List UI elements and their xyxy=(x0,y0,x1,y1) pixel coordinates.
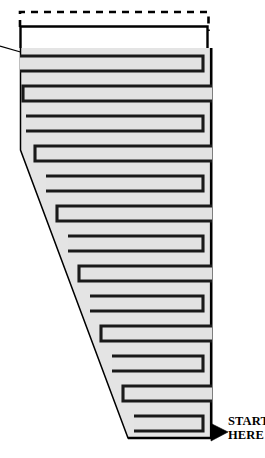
maze-wall-bar xyxy=(46,176,203,191)
maze-wall-bar xyxy=(26,116,203,131)
maze-wall-bar xyxy=(112,356,203,371)
maze-wall-bar-fill xyxy=(23,86,212,101)
maze-wall-bar-fill xyxy=(90,296,203,311)
maze-wall-bar-fill xyxy=(101,326,212,341)
maze-wall-bar xyxy=(35,146,212,161)
maze-wall-bar xyxy=(57,206,212,221)
maze-wall-bar xyxy=(20,56,203,71)
maze-wall-bar xyxy=(68,236,203,251)
maze-wall-bar-fill xyxy=(35,146,212,161)
maze-wall-bar-fill xyxy=(20,56,203,71)
maze-wall-bar-fill xyxy=(79,266,212,281)
maze-wall-bar xyxy=(101,326,212,341)
maze-wall-bar-fill xyxy=(134,416,203,431)
maze-wall-bar-fill xyxy=(112,356,203,371)
maze-figure xyxy=(0,0,265,458)
maze-wall-bar-fill xyxy=(46,176,203,191)
maze-wall-bar-fill xyxy=(26,116,203,131)
start-label-line2: HERE xyxy=(228,429,265,443)
start-label-line1: START xyxy=(228,415,265,429)
maze-wall-bar xyxy=(134,416,203,431)
maze-wall-bar xyxy=(90,296,203,311)
maze-wall-bar-fill xyxy=(123,386,212,401)
maze-wall-bar xyxy=(123,386,212,401)
start-here-label: START HERE xyxy=(228,415,265,442)
maze-wall-bar xyxy=(79,266,212,281)
maze-wall-bar-fill xyxy=(68,236,203,251)
maze-wall-bar-fill xyxy=(57,206,212,221)
maze-wall-bar xyxy=(23,86,212,101)
